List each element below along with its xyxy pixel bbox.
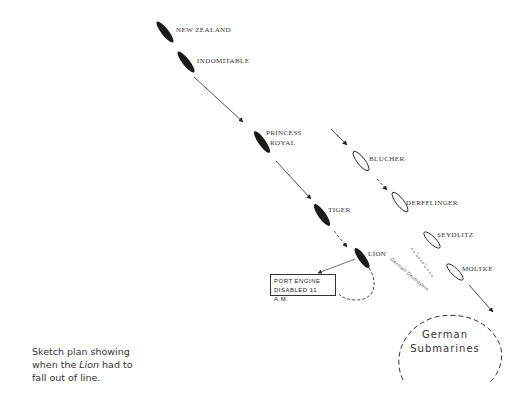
note-line2: DISABLED 11 A.M. — [274, 286, 332, 304]
label-lion: LION — [368, 250, 386, 259]
note-line1: PORT ENGINE — [274, 277, 332, 286]
label-moltke: MOLTKE — [462, 265, 493, 274]
caption-ship-name: Lion — [79, 359, 99, 370]
note-pointer-arrow — [318, 259, 355, 273]
label-indomitable: INDOMITABLE — [197, 57, 249, 66]
course-arrow — [276, 161, 311, 199]
battle-sketch-diagram: NEW ZEALAND INDOMITABLE PRINCESS ROYAL T… — [0, 0, 523, 412]
submarines-line2: Submarines — [405, 342, 485, 356]
label-princess-royal-line1: PRINCESS — [266, 129, 302, 138]
lion-turn-track — [338, 268, 374, 300]
british-ship-new-zealand — [154, 20, 176, 45]
label-new-zealand: NEW ZEALAND — [176, 26, 231, 35]
course-arrow — [469, 285, 493, 312]
label-tiger: TIGER — [328, 206, 351, 215]
course-arrow — [331, 129, 347, 145]
british-ship-indomitable — [175, 50, 197, 75]
label-seydlitz: SEYDLITZ — [437, 231, 474, 240]
submarines-label: German Submarines — [405, 328, 485, 356]
german-destroyers-dots — [411, 248, 432, 276]
label-princess-royal-line2: ROYAL — [270, 139, 295, 148]
course-arrow — [194, 77, 243, 122]
submarines-line1: German — [405, 328, 485, 342]
label-derfflinger: DERFFLINGER — [406, 199, 458, 208]
course-arrow — [377, 179, 387, 190]
label-blucher: BLUCHER — [369, 155, 404, 164]
figure-caption: Sketch plan showing when the Lion had to… — [32, 345, 142, 384]
port-engine-note: PORT ENGINE DISABLED 11 A.M. — [270, 274, 336, 296]
course-arrow — [334, 231, 347, 247]
